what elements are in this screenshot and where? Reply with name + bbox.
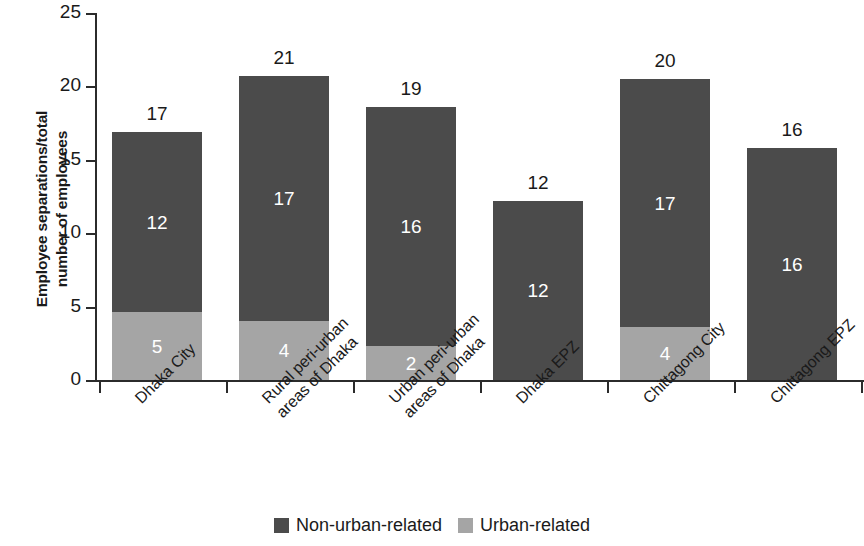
y-axis-tick-label: 5	[70, 295, 81, 317]
legend-label: Non-urban-related	[296, 516, 442, 534]
y-axis-tick-label: 10	[60, 221, 81, 243]
bar-total-label: 21	[239, 48, 329, 67]
bar[interactable]: 174	[239, 76, 329, 380]
y-axis-tick: 15	[86, 160, 95, 162]
legend-item[interactable]: Urban-related	[458, 516, 590, 534]
bar-total-label: 12	[493, 173, 583, 192]
bar-total-label: 17	[112, 104, 202, 123]
y-axis-tick: 25	[86, 13, 95, 15]
stacked-bar-chart: Employee separations/total number of emp…	[0, 0, 864, 546]
y-axis-tick-label: 20	[60, 74, 81, 96]
bar-total-label: 16	[747, 120, 837, 139]
y-axis-tick-label: 25	[60, 1, 81, 23]
x-axis-tick	[99, 382, 101, 393]
y-axis-tick: 0	[86, 380, 95, 382]
bar-segment-value-label: 4	[660, 344, 671, 363]
x-axis-tick	[480, 382, 482, 393]
legend-label: Urban-related	[480, 516, 590, 534]
bar-total-label: 20	[620, 51, 710, 70]
bar-segment-non-urban-related[interactable]: 12	[112, 132, 202, 313]
x-axis-tick	[607, 382, 609, 393]
bar-total-label: 19	[366, 79, 456, 98]
chart-legend: Non-urban-relatedUrban-related	[0, 516, 864, 534]
bar-segment-value-label: 12	[146, 213, 167, 232]
x-axis-tick	[226, 382, 228, 393]
y-axis-tick-label: 15	[60, 148, 81, 170]
bar-segment-value-label: 17	[273, 189, 294, 208]
legend-item[interactable]: Non-urban-related	[274, 516, 442, 534]
bar-segment-value-label: 16	[400, 217, 421, 236]
y-axis-tick-label: 0	[70, 368, 81, 390]
y-axis-tick: 10	[86, 233, 95, 235]
bar-segment-value-label: 5	[152, 337, 163, 356]
bar-segment-value-label: 12	[527, 281, 548, 300]
bar-segment-value-label: 17	[654, 194, 675, 213]
x-axis-tick	[861, 382, 863, 393]
x-axis-tick	[734, 382, 736, 393]
bar-segment-value-label: 4	[279, 341, 290, 360]
y-axis-tick: 5	[86, 307, 95, 309]
bar-segment-non-urban-related[interactable]: 16	[366, 107, 456, 346]
y-axis-title-line-1: Employee separations/total	[32, 111, 52, 307]
y-axis-line	[95, 13, 97, 380]
bar-segment-non-urban-related[interactable]: 17	[620, 79, 710, 327]
legend-swatch	[458, 518, 473, 533]
bar-segment-non-urban-related[interactable]: 17	[239, 76, 329, 321]
y-axis-tick: 20	[86, 86, 95, 88]
bar-segment-value-label: 16	[781, 255, 802, 274]
x-axis-tick	[353, 382, 355, 393]
legend-swatch	[274, 518, 289, 533]
